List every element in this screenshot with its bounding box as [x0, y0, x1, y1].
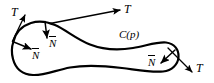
- tangent-label-upper-left: T: [11, 6, 18, 18]
- overbar-top: [49, 36, 55, 37]
- normal-left-arrow: [13, 42, 32, 50]
- curve-diagram-figure: T T T N N N C(p): [0, 0, 214, 83]
- normal-glyph-top: N: [49, 37, 56, 49]
- curve-name-label: C(p): [119, 29, 139, 40]
- tangent-symbol-upper-left: T: [11, 5, 18, 19]
- tangent-label-lower-right: T: [196, 62, 203, 74]
- vector-arrow-group: [13, 10, 193, 72]
- normal-glyph-left: N: [32, 49, 39, 61]
- normal-label-top: N: [49, 38, 56, 49]
- normal-symbol-right: N: [148, 57, 155, 68]
- tangent-upper-right-arrow: [50, 10, 120, 24]
- normal-symbol-top: N: [49, 38, 56, 49]
- normal-label-right: N: [148, 57, 155, 68]
- normal-label-left: N: [32, 50, 39, 61]
- tangent-symbol-lower-right: T: [196, 61, 203, 75]
- normal-glyph-right: N: [148, 56, 155, 68]
- tangent-symbol-upper-right: T: [124, 2, 131, 16]
- normal-symbol-left: N: [32, 50, 39, 61]
- tangent-label-upper-right: T: [124, 3, 131, 15]
- curve-name-text: C(p): [119, 28, 139, 40]
- overbar-right: [148, 55, 154, 56]
- normal-right-arrow: [161, 50, 175, 63]
- overbar-left: [32, 48, 38, 49]
- diagram-canvas: [0, 0, 214, 83]
- normal-top-arrow: [45, 22, 47, 39]
